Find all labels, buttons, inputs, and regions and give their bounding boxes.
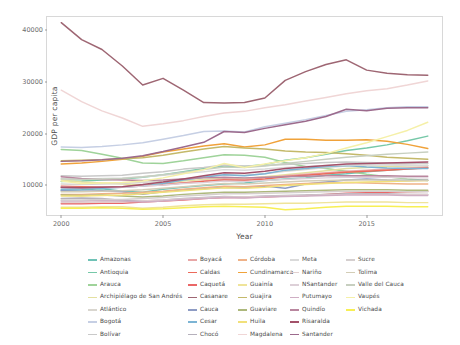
legend-swatch-icon	[238, 297, 247, 299]
legend-item[interactable]: Putumayo	[290, 291, 346, 303]
legend-item[interactable]: Nariño	[290, 266, 346, 278]
legend-item[interactable]: Bolívar	[88, 328, 188, 340]
legend-swatch-icon	[188, 259, 197, 261]
legend-item[interactable]: Guaviare	[238, 304, 290, 316]
legend-item-label: Santander	[302, 332, 333, 338]
legend-column: MetaNariñoNSantanderPutumayoQuindíoRisar…	[290, 254, 346, 341]
legend-item[interactable]: Guajira	[238, 291, 290, 303]
legend-item[interactable]: Valle del Cauca	[346, 279, 406, 291]
y-tick-label: 40000	[22, 26, 43, 34]
legend-item-label: Amazonas	[100, 257, 131, 263]
legend-item[interactable]: Vichada	[346, 304, 406, 316]
legend-item[interactable]: Antioquia	[88, 266, 188, 278]
legend-item-label: Putumayo	[302, 294, 332, 300]
legend-item-label: Boyacá	[200, 257, 222, 263]
legend-swatch-icon	[238, 334, 247, 336]
legend-swatch-icon	[346, 284, 355, 286]
legend-item[interactable]: Bogotá	[88, 316, 188, 328]
legend-item[interactable]: Cundinamarca	[238, 266, 290, 278]
legend-item-label: Cesar	[200, 319, 217, 325]
legend-swatch-icon	[290, 259, 299, 261]
legend-item[interactable]: Tolima	[346, 266, 406, 278]
legend-swatch-icon	[290, 272, 299, 274]
x-axis-title: Year	[46, 232, 443, 241]
legend-item[interactable]: Cauca	[188, 304, 238, 316]
legend-item-label: Casanare	[200, 294, 228, 300]
legend-item[interactable]: Caldas	[188, 266, 238, 278]
chart-legend: AmazonasAntioquiaAraucaArchipiélago de S…	[88, 254, 418, 341]
legend-item-label: Chocó	[200, 332, 219, 338]
chart-root: GDP per capita 10000200003000040000 2000…	[0, 0, 460, 345]
x-tick-label: 2015	[358, 220, 375, 228]
legend-column: AmazonasAntioquiaAraucaArchipiélago de S…	[88, 254, 188, 341]
legend-item-label: Córdoba	[250, 257, 275, 263]
legend-swatch-icon	[88, 297, 97, 299]
legend-item[interactable]: Meta	[290, 254, 346, 266]
x-tick-mark	[366, 215, 367, 218]
y-tick-label: 10000	[22, 181, 43, 189]
y-tick-mark	[45, 30, 48, 31]
legend-item-label: Guajira	[250, 294, 272, 300]
legend-item-label: Vichada	[358, 307, 382, 313]
legend-item[interactable]: Guainía	[238, 279, 290, 291]
legend-item[interactable]: Huila	[238, 316, 290, 328]
legend-item[interactable]: Caquetá	[188, 279, 238, 291]
legend-swatch-icon	[346, 259, 355, 261]
legend-item[interactable]: Córdoba	[238, 254, 290, 266]
series-lines	[47, 17, 442, 215]
legend-item-label: Guaviare	[250, 307, 277, 313]
legend-swatch-icon	[238, 284, 247, 286]
legend-item-label: Magdalena	[250, 332, 283, 338]
legend-swatch-icon	[88, 284, 97, 286]
legend-item[interactable]: Amazonas	[88, 254, 188, 266]
y-axis-title: GDP per capita	[50, 86, 59, 145]
legend-swatch-icon	[238, 272, 247, 274]
legend-swatch-icon	[238, 321, 247, 323]
legend-item[interactable]: Risaralda	[290, 316, 346, 328]
legend-item[interactable]: Boyacá	[188, 254, 238, 266]
legend-item-label: Tolima	[358, 270, 377, 276]
legend-swatch-icon	[88, 259, 97, 261]
legend-swatch-icon	[188, 334, 197, 336]
legend-item-label: Caquetá	[200, 282, 225, 288]
legend-item-label: Bolívar	[100, 332, 121, 338]
legend-item-label: Huila	[250, 319, 265, 325]
legend-item-label: Vaupés	[358, 294, 380, 300]
legend-swatch-icon	[290, 284, 299, 286]
legend-item-label: Meta	[302, 257, 317, 263]
header-strip	[0, 0, 460, 12]
legend-item[interactable]: NSantander	[290, 279, 346, 291]
legend-item[interactable]: Santander	[290, 328, 346, 340]
legend-item[interactable]: Archipiélago de San Andrés	[88, 291, 188, 303]
legend-swatch-icon	[238, 309, 247, 311]
legend-swatch-icon	[290, 309, 299, 311]
legend-item[interactable]: Quindío	[290, 304, 346, 316]
legend-item-label: NSantander	[302, 282, 337, 288]
legend-item[interactable]: Casanare	[188, 291, 238, 303]
legend-item-label: Nariño	[302, 270, 322, 276]
legend-swatch-icon	[346, 272, 355, 274]
legend-item[interactable]: Sucre	[346, 254, 406, 266]
y-tick-label: 20000	[22, 130, 43, 138]
legend-swatch-icon	[88, 272, 97, 274]
legend-swatch-icon	[290, 321, 299, 323]
legend-item-label: Valle del Cauca	[358, 282, 404, 288]
x-tick-label: 2010	[257, 220, 274, 228]
legend-item[interactable]: Chocó	[188, 328, 238, 340]
series-line	[61, 139, 428, 164]
legend-item-label: Sucre	[358, 257, 375, 263]
legend-item[interactable]: Vaupés	[346, 291, 406, 303]
legend-column: SucreTolimaValle del CaucaVaupésVichada	[346, 254, 406, 341]
legend-item-label: Antioquia	[100, 270, 129, 276]
y-tick-mark	[45, 185, 48, 186]
x-tick-mark	[61, 215, 62, 218]
legend-item[interactable]: Atlántico	[88, 304, 188, 316]
legend-swatch-icon	[88, 334, 97, 336]
legend-item[interactable]: Arauca	[88, 279, 188, 291]
legend-column: BoyacáCaldasCaquetáCasanareCaucaCesarCho…	[188, 254, 238, 341]
legend-item[interactable]: Magdalena	[238, 328, 290, 340]
x-tick-mark	[163, 215, 164, 218]
legend-item-label: Cundinamarca	[250, 270, 293, 276]
legend-swatch-icon	[88, 309, 97, 311]
legend-item[interactable]: Cesar	[188, 316, 238, 328]
